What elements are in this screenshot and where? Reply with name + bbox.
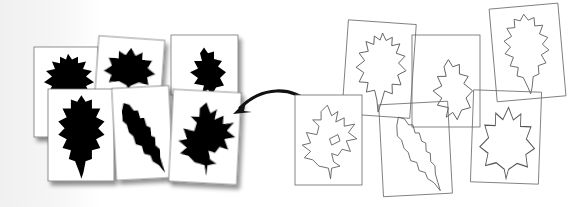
silhouette-card-narrow-serrate — [112, 86, 174, 181]
outline-cards-group — [295, 3, 566, 197]
leaf-outline-icon — [479, 106, 536, 179]
outline-card-pin-oak — [295, 95, 362, 185]
outline-card-maple-like — [470, 90, 541, 184]
outline-card-oak-elongated — [489, 3, 566, 102]
leaf-matching-figure — [0, 0, 576, 207]
silhouette-card-oak-elongated — [48, 89, 114, 181]
leaf-outline-icon — [433, 60, 473, 120]
outline-card-oak-small — [412, 35, 480, 127]
silhouette-card-pin-oak — [169, 89, 242, 184]
silhouette-cards-group — [34, 35, 241, 185]
silhouette-card-oak-small — [171, 35, 238, 95]
